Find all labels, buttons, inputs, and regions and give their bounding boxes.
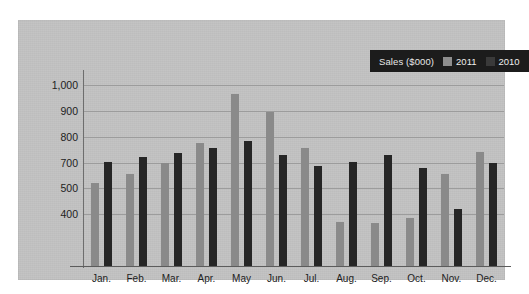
- bar-2010-mar[interactable]: [174, 153, 182, 266]
- x-axis-tick-label: Dec.: [469, 270, 504, 290]
- x-axis-line: [70, 266, 511, 267]
- bar-2011-sep[interactable]: [371, 223, 379, 266]
- bar-2011-apr[interactable]: [196, 143, 204, 266]
- legend-label-2011: 2011: [456, 56, 476, 67]
- y-axis-tick-label: 500: [34, 182, 78, 194]
- bar-group: [189, 72, 224, 266]
- bar-2010-apr[interactable]: [209, 148, 217, 266]
- legend-swatch-2011-icon: [443, 57, 452, 66]
- x-axis-tick-label: Mar.: [154, 270, 189, 290]
- bar-group: [469, 72, 504, 266]
- legend-swatch-2010-icon: [486, 57, 495, 66]
- bar-2010-oct[interactable]: [419, 168, 427, 266]
- y-axis-tick-label: 400: [34, 208, 78, 220]
- x-axis-tick-label: Jun.: [259, 270, 294, 290]
- x-axis-tick-label: Sep.: [364, 270, 399, 290]
- bar-2011-dec[interactable]: [476, 152, 484, 266]
- bar-2010-jul[interactable]: [314, 166, 322, 266]
- bar-2010-jan[interactable]: [104, 162, 112, 266]
- y-axis-tick-label: 1,000: [34, 79, 78, 91]
- bar-2011-nov[interactable]: [441, 174, 449, 266]
- x-axis-tick-label: Aug.: [329, 270, 364, 290]
- bar-group: [434, 72, 469, 266]
- bar-group: [84, 72, 119, 266]
- bar-2010-sep[interactable]: [384, 155, 392, 266]
- bar-2011-jul[interactable]: [301, 148, 309, 266]
- bar-series-layer: [84, 72, 504, 266]
- x-axis-tick-labels: Jan.Feb.Mar.Apr.MayJun.Jul.Aug.Sep.Oct.N…: [84, 270, 504, 290]
- x-axis-tick-label: Jan.: [84, 270, 119, 290]
- y-axis-tick-label: 900: [34, 105, 78, 117]
- x-axis-tick-label: Feb.: [119, 270, 154, 290]
- x-axis-tick-label: Oct.: [399, 270, 434, 290]
- bar-group: [259, 72, 294, 266]
- y-axis-tick-label: 800: [34, 131, 78, 143]
- chart-panel: Sales ($000) 2011 2010 1,000900800700500…: [18, 20, 505, 280]
- bar-2011-oct[interactable]: [406, 218, 414, 266]
- bar-2011-mar[interactable]: [161, 163, 169, 266]
- bar-2011-jan[interactable]: [91, 183, 99, 266]
- y-axis-tick-label: 700: [34, 157, 78, 169]
- x-axis-tick-label: Apr.: [189, 270, 224, 290]
- bar-group: [224, 72, 259, 266]
- legend-title: Sales ($000): [379, 56, 434, 67]
- bar-2011-jun[interactable]: [266, 112, 274, 266]
- x-axis-tick-label: May: [224, 270, 259, 290]
- bar-group: [364, 72, 399, 266]
- bar-2010-jun[interactable]: [279, 155, 287, 266]
- legend-entry-2010[interactable]: 2010: [486, 56, 520, 67]
- bar-group: [399, 72, 434, 266]
- bar-group: [154, 72, 189, 266]
- x-axis-tick-label: Nov.: [434, 270, 469, 290]
- legend-label-2010: 2010: [499, 56, 520, 67]
- y-axis-tick-labels: 1,000900800700500400: [30, 72, 78, 266]
- bar-2010-feb[interactable]: [139, 157, 147, 266]
- legend-entry-2011[interactable]: 2011: [443, 56, 476, 67]
- bar-2011-aug[interactable]: [336, 222, 344, 266]
- bar-2010-nov[interactable]: [454, 209, 462, 266]
- bar-2011-feb[interactable]: [126, 174, 134, 266]
- bar-2010-aug[interactable]: [349, 162, 357, 266]
- bar-2011-may[interactable]: [231, 94, 239, 266]
- x-axis-tick-label: Jul.: [294, 270, 329, 290]
- bar-group: [119, 72, 154, 266]
- bar-group: [294, 72, 329, 266]
- bar-2010-dec[interactable]: [489, 163, 497, 266]
- bar-2010-may[interactable]: [244, 141, 252, 266]
- bar-group: [329, 72, 364, 266]
- chart-legend: Sales ($000) 2011 2010: [370, 50, 529, 72]
